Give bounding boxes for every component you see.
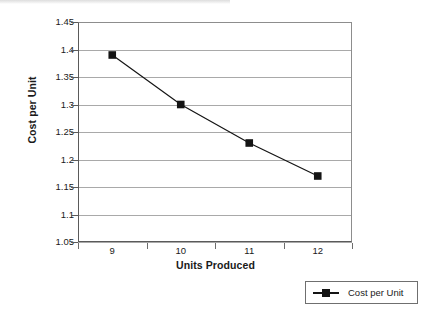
legend-entry-cost-per-unit: Cost per Unit — [306, 287, 403, 298]
x-tick-label: 11 — [229, 245, 269, 256]
line-chart-figure: Cost per Unit 1.451.41.351.31.251.21.151… — [0, 0, 434, 319]
y-tickmark — [71, 105, 78, 106]
y-tickmark — [71, 50, 78, 51]
y-tickmark — [71, 242, 78, 243]
data-point-marker — [108, 51, 116, 59]
y-axis-tick-labels: 1.451.41.351.31.251.21.151.11.05 — [34, 0, 74, 319]
y-tickmark — [71, 22, 78, 23]
data-point-marker — [314, 172, 322, 180]
y-tick-label: 1.45 — [36, 17, 74, 27]
y-tick-label: 1.15 — [36, 182, 74, 192]
y-tick-label: 1.25 — [36, 127, 74, 137]
y-tick-label: 1.3 — [36, 100, 74, 110]
data-point-marker — [177, 101, 185, 109]
legend-marker-icon — [313, 287, 339, 298]
y-tick-label: 1.35 — [36, 72, 74, 82]
y-tick-label: 1.1 — [36, 210, 74, 220]
data-point-marker — [245, 139, 253, 147]
y-tick-label: 1.2 — [36, 155, 74, 165]
x-axis-tick-labels: 9101112 — [78, 245, 353, 259]
y-tickmark — [71, 77, 78, 78]
data-series-cost-per-unit — [78, 22, 352, 242]
x-tick-label: 10 — [161, 245, 201, 256]
y-tick-label: 1.05 — [36, 237, 74, 247]
y-tickmark — [71, 187, 78, 188]
y-tick-label: 1.4 — [36, 45, 74, 55]
y-tickmark — [71, 215, 78, 216]
x-tick-label: 9 — [92, 245, 132, 256]
x-tick-label: 12 — [298, 245, 338, 256]
y-tickmark — [71, 132, 78, 133]
series-line — [112, 55, 318, 176]
chart-legend: Cost per Unit — [305, 281, 418, 304]
plot-area — [78, 22, 352, 242]
x-axis-title: Units Produced — [78, 259, 353, 271]
y-tickmark — [71, 160, 78, 161]
legend-label: Cost per Unit — [339, 287, 403, 298]
